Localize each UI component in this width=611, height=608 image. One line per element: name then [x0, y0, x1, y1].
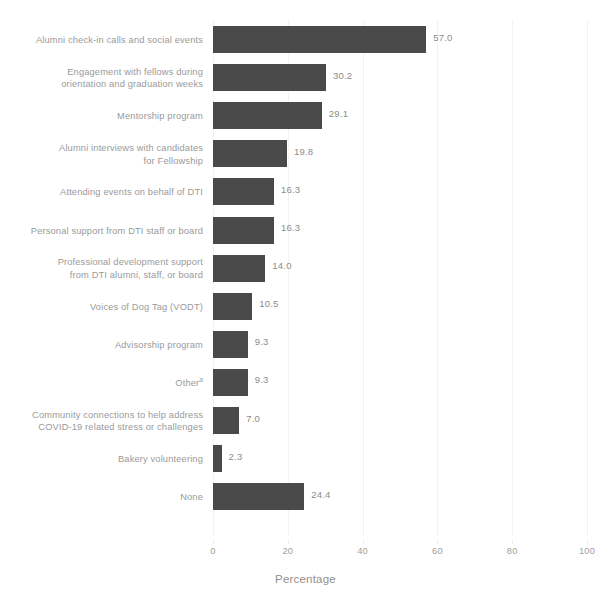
bar — [213, 369, 248, 396]
bar — [213, 293, 252, 320]
category-label: Alumni check-in calls and social events — [0, 34, 203, 47]
bar-value-label: 14.0 — [272, 260, 291, 271]
category-label-line: Bakery volunteering — [0, 453, 203, 466]
bar-row: 16.3Attending events on behalf of DTI — [213, 173, 587, 211]
bar-value-label: 19.8 — [294, 146, 313, 157]
x-axis-tick-label: 100 — [579, 546, 595, 556]
x-axis-tick — [363, 540, 364, 544]
bar-chart: 57.0Alumni check-in calls and social eve… — [0, 0, 611, 608]
category-label-line: orientation and graduation weeks — [0, 78, 203, 91]
x-axis-tick-label: 20 — [282, 546, 293, 556]
bar-row: 9.3Advisorship program — [213, 325, 587, 363]
bar — [213, 178, 274, 205]
category-label-line: Community connections to help address — [0, 409, 203, 422]
category-label: None — [0, 491, 203, 504]
category-label-line: Othera — [0, 377, 203, 390]
category-label: Voices of Dog Tag (VODT) — [0, 301, 203, 314]
category-label-line: from DTI alumni, staff, or board — [0, 269, 203, 282]
bar-value-label: 7.0 — [246, 413, 260, 424]
bar-row: 10.5Voices of Dog Tag (VODT) — [213, 287, 587, 325]
bar — [213, 102, 322, 129]
category-label: Attending events on behalf of DTI — [0, 186, 203, 199]
category-label-line: None — [0, 491, 203, 504]
category-label-line: Alumni check-in calls and social events — [0, 34, 203, 47]
bar-row: 19.8Alumni interviews with candidatesfor… — [213, 135, 587, 173]
bar-row: 24.4None — [213, 478, 587, 516]
bar-row: 7.0Community connections to help address… — [213, 402, 587, 440]
category-label: Alumni interviews with candidatesfor Fel… — [0, 142, 203, 167]
category-label: Professional development supportfrom DTI… — [0, 256, 203, 281]
footnote-marker: a — [199, 376, 203, 383]
category-label: Mentorship program — [0, 110, 203, 123]
bar-row: 9.3Othera — [213, 363, 587, 401]
x-axis-title: Percentage — [0, 573, 611, 585]
x-axis-tick-label: 0 — [210, 546, 215, 556]
bar — [213, 331, 248, 358]
category-label-line: Personal support from DTI staff or board — [0, 225, 203, 238]
bar-row: 57.0Alumni check-in calls and social eve… — [213, 21, 587, 59]
category-label: Othera — [0, 377, 203, 390]
category-label: Personal support from DTI staff or board — [0, 225, 203, 238]
bar-row: 29.1Mentorship program — [213, 97, 587, 135]
bar-value-label: 9.3 — [255, 374, 269, 385]
bar-row: 30.2Engagement with fellows duringorient… — [213, 59, 587, 97]
bar-row: 14.0Professional development supportfrom… — [213, 249, 587, 287]
category-label: Community connections to help addressCOV… — [0, 409, 203, 434]
category-label-line: Advisorship program — [0, 339, 203, 352]
category-label-line: Mentorship program — [0, 110, 203, 123]
bar-value-label: 16.3 — [281, 222, 300, 233]
bar-value-label: 30.2 — [333, 70, 352, 81]
category-label-line: COVID-19 related stress or challenges — [0, 421, 203, 434]
category-label-line: Alumni interviews with candidates — [0, 142, 203, 155]
bar — [213, 217, 274, 244]
category-label-line: Engagement with fellows during — [0, 66, 203, 79]
x-axis-tick — [512, 540, 513, 544]
x-axis-tick-label: 80 — [507, 546, 518, 556]
bar-value-label: 9.3 — [255, 336, 269, 347]
bar — [213, 255, 265, 282]
bar-value-label: 16.3 — [281, 184, 300, 195]
bar-value-label: 10.5 — [259, 298, 278, 309]
bar — [213, 445, 222, 472]
category-label: Advisorship program — [0, 339, 203, 352]
category-label-line: Voices of Dog Tag (VODT) — [0, 301, 203, 314]
category-label: Bakery volunteering — [0, 453, 203, 466]
bar — [213, 407, 239, 434]
x-axis-tick — [437, 540, 438, 544]
bar-value-label: 29.1 — [329, 108, 348, 119]
plot-area: 57.0Alumni check-in calls and social eve… — [213, 0, 587, 540]
x-gridline — [587, 20, 588, 536]
bar — [213, 483, 304, 510]
bar-row: 2.3Bakery volunteering — [213, 440, 587, 478]
bar-row: 16.3Personal support from DTI staff or b… — [213, 211, 587, 249]
category-label: Engagement with fellows duringorientatio… — [0, 66, 203, 91]
x-axis-tick — [288, 540, 289, 544]
bar — [213, 64, 326, 91]
bar — [213, 26, 426, 53]
x-axis-tick — [587, 540, 588, 544]
category-label-line: for Fellowship — [0, 155, 203, 168]
bar-value-label: 2.3 — [229, 451, 243, 462]
x-axis-tick-label: 60 — [432, 546, 443, 556]
x-axis-tick — [213, 540, 214, 544]
bar-value-label: 24.4 — [311, 489, 330, 500]
category-label-line: Professional development support — [0, 256, 203, 269]
category-label-line: Attending events on behalf of DTI — [0, 186, 203, 199]
bar — [213, 140, 287, 167]
x-axis-tick-label: 40 — [357, 546, 368, 556]
bar-value-label: 57.0 — [433, 32, 452, 43]
